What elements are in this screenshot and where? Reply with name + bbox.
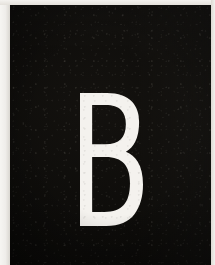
top-margin: [0, 0, 215, 5]
scanned-image: [0, 0, 215, 265]
letter-glyph: [10, 5, 211, 265]
letter-b-icon: [10, 5, 211, 265]
left-margin: [0, 0, 10, 265]
right-margin: [211, 0, 215, 265]
dark-plate: [10, 5, 211, 265]
